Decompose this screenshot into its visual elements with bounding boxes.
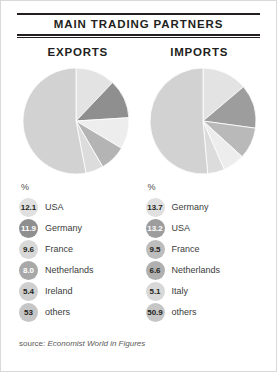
legend-label: Netherlands	[45, 265, 94, 276]
legend-value-swatch: 53	[19, 303, 38, 322]
legend-value-swatch: 11.9	[19, 219, 38, 238]
legend-row: 9.5France	[146, 239, 267, 260]
legend-value-swatch: 13.7	[146, 198, 165, 217]
legend-label: Netherlands	[172, 265, 221, 276]
legend-unit-label: %	[21, 182, 140, 192]
legend-row: 50.9others	[146, 302, 267, 323]
legend-label: others	[172, 307, 197, 318]
column-heading-exports: EXPORTS	[17, 46, 139, 58]
source-note: source: Economist World in Figures	[19, 339, 145, 348]
legend-row: 11.9Germany	[19, 218, 140, 239]
pie-chart-exports	[13, 67, 140, 175]
legend-value-swatch: 5.1	[146, 282, 165, 301]
legend-value-swatch: 5.4	[19, 282, 38, 301]
legend-label: USA	[172, 223, 191, 234]
pie-chart-imports	[140, 67, 267, 175]
legend-row: 5.4Ireland	[19, 281, 140, 302]
source-publication: Economist World in Figures	[47, 339, 145, 348]
legend-row: 13.2USA	[146, 218, 267, 239]
legend-row: 8.0Netherlands	[19, 260, 140, 281]
legend-label: Germany	[172, 202, 209, 213]
legend-row: 53others	[19, 302, 140, 323]
legend-imports: % 13.7Germany13.2USA9.5France6.6Netherla…	[140, 182, 267, 323]
legend-value-swatch: 9.5	[146, 240, 165, 259]
pie-imports-svg	[149, 67, 257, 175]
column-heading-imports: IMPORTS	[139, 46, 261, 58]
header-rule-bottom	[17, 34, 260, 36]
legend-value-swatch: 50.9	[146, 303, 165, 322]
legend-row: 5.1Italy	[146, 281, 267, 302]
legend-label: Germany	[45, 223, 82, 234]
legend-label: others	[45, 307, 70, 318]
legend-unit-label: %	[148, 182, 267, 192]
legend-label: Ireland	[45, 286, 73, 297]
legend-row: 13.7Germany	[146, 197, 267, 218]
legend-value-swatch: 6.6	[146, 261, 165, 280]
legend-row: 6.6Netherlands	[146, 260, 267, 281]
legend-value-swatch: 13.2	[146, 219, 165, 238]
legend-value-swatch: 8.0	[19, 261, 38, 280]
column-headings: EXPORTS IMPORTS	[17, 46, 260, 58]
source-prefix: source:	[19, 339, 47, 348]
legend-row: 9.6France	[19, 239, 140, 260]
legend-label: Italy	[172, 286, 189, 297]
legend-exports: % 12.1USA11.9Germany9.6France8.0Netherla…	[13, 182, 140, 323]
pie-charts-row	[13, 67, 266, 175]
pie-exports-svg	[22, 67, 130, 175]
page-title: MAIN TRADING PARTNERS	[17, 15, 260, 34]
legend-label: USA	[45, 202, 64, 213]
legend-label: France	[172, 244, 200, 255]
legend-label: France	[45, 244, 73, 255]
panel-header: MAIN TRADING PARTNERS	[17, 13, 260, 38]
header-rule-bottom-hairline	[17, 37, 260, 38]
infographic-panel: MAIN TRADING PARTNERS EXPORTS IMPORTS % …	[0, 0, 277, 372]
legend-row: 12.1USA	[19, 197, 140, 218]
legends-row: % 12.1USA11.9Germany9.6France8.0Netherla…	[13, 182, 266, 323]
legend-value-swatch: 9.6	[19, 240, 38, 259]
pie-slice-others	[150, 68, 208, 174]
legend-value-swatch: 12.1	[19, 198, 38, 217]
